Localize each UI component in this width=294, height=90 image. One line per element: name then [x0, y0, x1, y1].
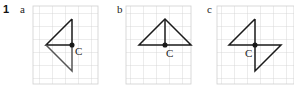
panel-c-center-label: C [245, 47, 252, 59]
panel-b-center-label: C [166, 47, 173, 59]
diagram-canvas: C C C [0, 0, 294, 90]
panel-a-center-label: C [75, 45, 82, 57]
center-point-icon [253, 43, 257, 47]
center-point-icon [70, 43, 74, 47]
